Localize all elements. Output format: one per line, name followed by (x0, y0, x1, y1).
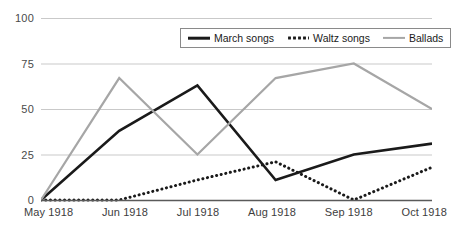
y-axis: 0255075100 (0, 0, 34, 239)
y-tick-label: 0 (28, 194, 34, 206)
chart-legend: March songsWaltz songsBallads (180, 28, 451, 48)
legend-item-waltz-songs[interactable]: Waltz songs (287, 32, 370, 44)
legend-swatch-icon (188, 33, 210, 43)
legend-swatch-icon (383, 33, 405, 43)
series-line-march-songs (41, 85, 432, 200)
legend-item-march-songs[interactable]: March songs (188, 32, 274, 44)
x-axis-tick-labels: May 1918Jun 1918Jul 1918Aug 1918Sep 1918… (41, 206, 432, 226)
x-tick-label: Jul 1918 (177, 206, 219, 218)
x-tick-label: Sep 1918 (325, 206, 373, 218)
x-tick-label: Aug 1918 (248, 206, 296, 218)
y-tick-label: 75 (21, 58, 34, 70)
legend-swatch-icon (287, 33, 309, 43)
y-tick-label: 25 (21, 149, 34, 161)
series-lines (41, 64, 432, 201)
legend-label: March songs (214, 32, 274, 44)
x-tick-label: Jun 1918 (102, 206, 148, 218)
x-tick-label: Oct 1918 (402, 206, 447, 218)
x-tick-label: May 1918 (24, 206, 73, 218)
legend-item-ballads[interactable]: Ballads (383, 32, 443, 44)
legend-label: Ballads (409, 32, 443, 44)
y-tick-label: 50 (21, 103, 34, 115)
y-tick-label: 100 (15, 12, 34, 24)
series-line-waltz-songs (41, 162, 432, 200)
legend-label: Waltz songs (313, 32, 370, 44)
